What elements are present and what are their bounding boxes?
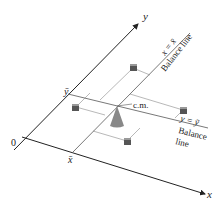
mass-cube — [72, 104, 79, 111]
y-bar-label: ȳ — [63, 86, 69, 97]
center-of-mass-diagram: y x 0 x̄ ȳ c.m. x = x̄ Balance line y = … — [0, 0, 223, 204]
y-axis — [14, 24, 138, 150]
x-bar-label: x̄ — [67, 154, 73, 165]
x-axis-label: x — [206, 188, 212, 200]
center-of-mass-label: c.m. — [133, 100, 149, 110]
fulcrum-cone — [110, 106, 124, 128]
mass-cube — [130, 64, 137, 71]
origin-label: 0 — [11, 137, 16, 148]
y-axis-label: y — [142, 10, 148, 22]
y-balance-label-2: line — [175, 136, 191, 149]
mass-cube — [124, 138, 131, 145]
